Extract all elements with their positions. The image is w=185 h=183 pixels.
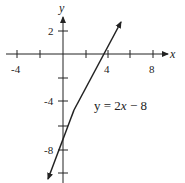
y-tick-label: -8 bbox=[44, 144, 54, 156]
y-tick-label: 2 bbox=[48, 25, 54, 37]
x-tick-label: -4 bbox=[11, 63, 21, 75]
x-tick-label: 4 bbox=[104, 63, 110, 75]
series-line bbox=[74, 22, 121, 110]
x-tick-label: 8 bbox=[149, 63, 155, 75]
chart: -4 4 8 2 -4 -8 x y y = 2x − 8 bbox=[0, 0, 185, 183]
x-axis-label: x bbox=[169, 47, 176, 61]
y-tick-label: -4 bbox=[44, 95, 54, 107]
y-axis-label: y bbox=[58, 1, 65, 15]
equation-label: y = 2x − 8 bbox=[94, 98, 147, 113]
